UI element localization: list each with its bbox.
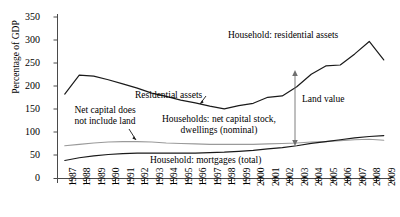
x-tick-label-2001: 2001: [272, 168, 282, 186]
x-tick-label-1998: 1998: [228, 168, 238, 186]
x-tick-label-1992: 1992: [141, 168, 151, 186]
annotation-land-value: Land value: [302, 94, 344, 105]
x-tick-label-1997: 1997: [214, 168, 224, 186]
x-tick-label-1989: 1989: [98, 168, 108, 186]
annotation-net-capital-stock-line1: Households: net capital stock,: [162, 114, 276, 124]
annotation-residential-assets: Residential assets: [135, 90, 202, 101]
net-capital-note-arrowhead: [132, 136, 136, 140]
x-tick-label-1993: 1993: [156, 168, 166, 186]
annotation-net-capital-note-line2: not include land: [74, 116, 135, 126]
chart-container: Percentage of GDP 350 300 250 200 150 10…: [0, 0, 400, 217]
annotation-net-capital-note: Net capital does not include land: [62, 105, 148, 127]
x-tick-label-2007: 2007: [359, 168, 369, 186]
x-tick-label-1995: 1995: [185, 168, 195, 186]
x-tick-label-1994: 1994: [170, 168, 180, 186]
x-tick-label-2006: 2006: [344, 168, 354, 186]
x-tick-label-2000: 2000: [257, 168, 267, 186]
x-tick-label-1996: 1996: [199, 168, 209, 186]
x-tick-label-1999: 1999: [243, 168, 253, 186]
annotation-household-residential-assets: Household: residential assets: [228, 30, 338, 41]
annotation-net-capital-stock: Households: net capital stock, dwellings…: [145, 114, 293, 136]
x-tick-label-2003: 2003: [301, 168, 311, 186]
annotation-net-capital-note-line1: Net capital does: [74, 105, 135, 115]
x-tick-label-1990: 1990: [112, 168, 122, 186]
land-value-indicator: [292, 70, 298, 146]
annotation-net-capital-stock-line2: dwellings (nominal): [181, 125, 258, 135]
x-tick-label-2009: 2009: [388, 168, 398, 186]
x-tick-label-1988: 1988: [83, 168, 93, 186]
x-tick-label-1987: 1987: [69, 168, 79, 186]
annotation-mortgages: Household: mortgages (total): [150, 155, 261, 166]
x-axis-ticks: [58, 179, 392, 184]
y-axis-ticks: [54, 17, 58, 179]
x-tick-label-2005: 2005: [330, 168, 340, 186]
x-tick-label-2004: 2004: [315, 168, 325, 186]
x-tick-label-1991: 1991: [127, 168, 137, 186]
x-tick-label-2008: 2008: [373, 168, 383, 186]
x-tick-label-2002: 2002: [286, 168, 296, 186]
